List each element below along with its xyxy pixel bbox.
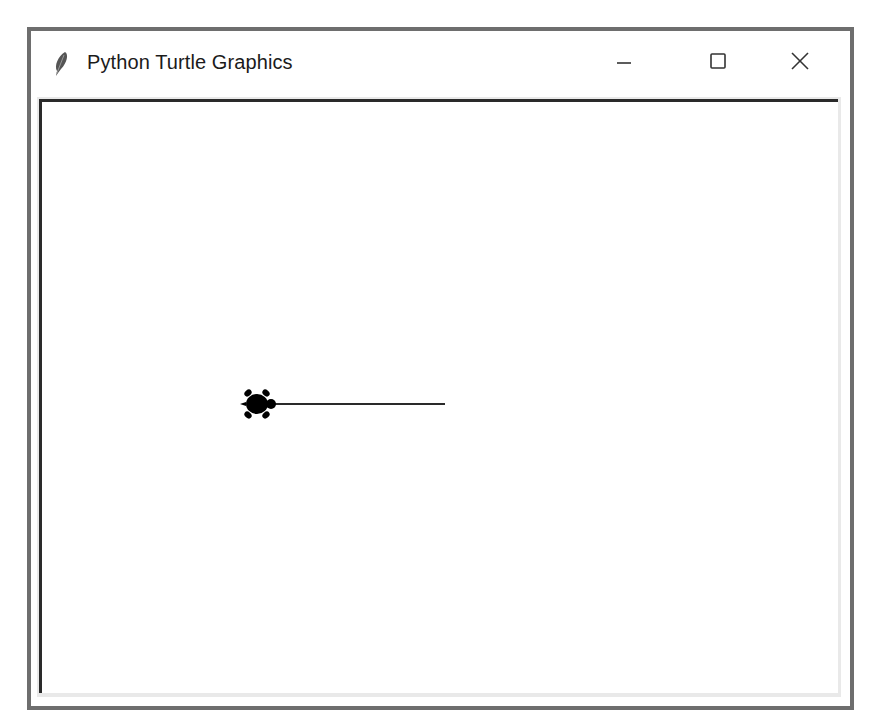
- minimize-icon: [614, 51, 634, 75]
- turtle-icon: [240, 388, 276, 420]
- window-title: Python Turtle Graphics: [87, 51, 293, 74]
- close-icon: [789, 50, 811, 76]
- maximize-icon: [708, 51, 728, 75]
- feather-icon: [53, 51, 69, 77]
- turtle-window: Python Turtle Graphics: [27, 27, 854, 710]
- drawing-surface: [42, 102, 842, 702]
- close-button[interactable]: [770, 41, 830, 85]
- canvas-frame: [37, 97, 841, 697]
- minimize-button[interactable]: [594, 41, 654, 85]
- title-bar[interactable]: Python Turtle Graphics: [31, 31, 850, 97]
- maximize-button[interactable]: [688, 41, 748, 85]
- turtle-canvas[interactable]: [39, 99, 838, 693]
